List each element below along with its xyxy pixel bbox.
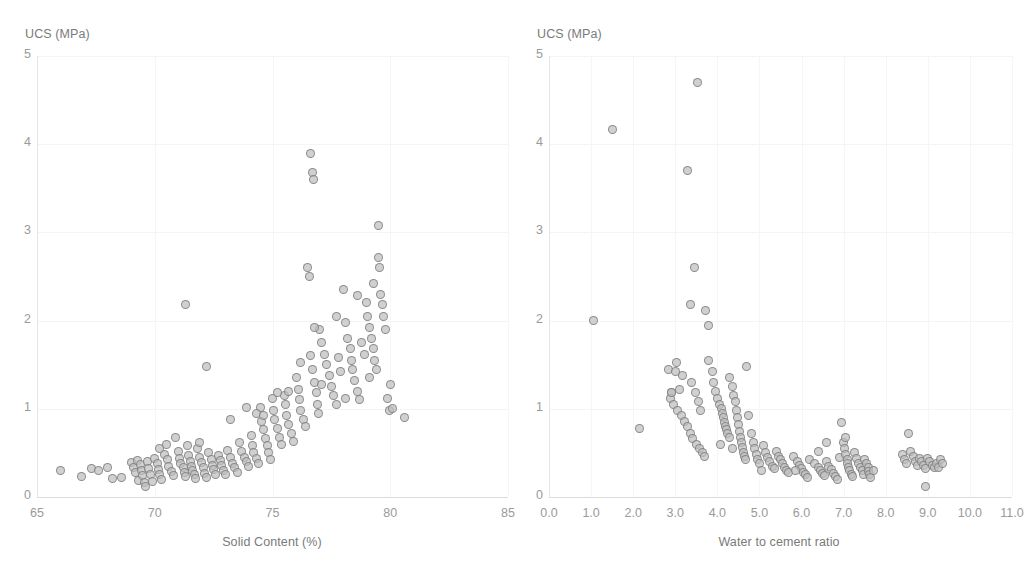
data-point	[281, 400, 290, 409]
data-point	[362, 298, 371, 307]
data-point	[313, 400, 322, 409]
data-point	[347, 356, 356, 365]
data-point	[327, 382, 336, 391]
gridline-vertical	[633, 56, 634, 497]
data-point	[728, 444, 737, 453]
scatter-plot-figure: UCS (MPa) 0123456570758085 Solid Content…	[0, 0, 1029, 588]
data-point	[635, 424, 644, 433]
data-point	[355, 395, 364, 404]
data-point	[296, 406, 305, 415]
x-axis-line	[37, 497, 508, 498]
data-point	[309, 175, 318, 184]
data-point	[259, 411, 268, 420]
data-point	[770, 464, 779, 473]
data-point	[346, 344, 355, 353]
data-point	[374, 253, 383, 262]
data-point	[700, 452, 709, 461]
data-point	[367, 334, 376, 343]
data-point	[589, 316, 598, 325]
data-point	[341, 318, 350, 327]
gridline-vertical	[844, 56, 845, 497]
data-point	[191, 474, 200, 483]
data-point	[731, 397, 740, 406]
data-point	[378, 300, 387, 309]
data-point	[747, 429, 756, 438]
data-point	[902, 459, 911, 468]
data-point	[348, 365, 357, 374]
data-point	[108, 474, 117, 483]
data-point	[704, 321, 713, 330]
data-point	[833, 475, 842, 484]
data-point	[233, 468, 242, 477]
data-point	[308, 365, 317, 374]
data-point	[671, 367, 680, 376]
y-axis-line	[549, 56, 550, 497]
y-axis-tick-label: 1	[7, 400, 31, 414]
data-point	[357, 338, 366, 347]
data-point	[353, 387, 362, 396]
y-axis-tick-label: 2	[519, 312, 543, 326]
data-point	[379, 312, 388, 321]
data-point	[306, 351, 315, 360]
y-axis-tick-label: 2	[7, 312, 31, 326]
data-point	[388, 404, 397, 413]
data-point	[148, 477, 157, 486]
data-point	[305, 272, 314, 281]
data-point	[195, 438, 204, 447]
data-point	[334, 353, 343, 362]
y-axis-label-right: UCS (MPa)	[537, 27, 602, 41]
x-axis-tick-label: 7.0	[824, 506, 864, 520]
gridline-horizontal	[549, 144, 1012, 145]
data-point	[608, 125, 617, 134]
plot-area-left: 0123456570758085	[37, 56, 508, 497]
chart-panel-water-cement: UCS (MPa) 0123450.01.02.03.04.05.06.07.0…	[519, 0, 1029, 588]
data-point	[869, 466, 878, 475]
data-point	[683, 166, 692, 175]
data-point	[728, 382, 737, 391]
gridline-vertical	[508, 56, 509, 497]
x-axis-tick-label: 9.0	[908, 506, 948, 520]
data-point	[183, 441, 192, 450]
data-point	[708, 367, 717, 376]
x-axis-tick-label: 70	[135, 506, 175, 520]
data-point	[254, 459, 263, 468]
y-axis-tick-label: 3	[7, 223, 31, 237]
y-axis-tick-label: 0	[519, 488, 543, 502]
data-point	[56, 466, 65, 475]
data-point	[336, 367, 345, 376]
data-point	[350, 376, 359, 385]
gridline-vertical	[928, 56, 929, 497]
data-point	[667, 388, 676, 397]
data-point	[686, 300, 695, 309]
data-point	[822, 438, 831, 447]
gridline-vertical	[675, 56, 676, 497]
data-point	[365, 373, 374, 382]
x-axis-line	[549, 497, 1012, 498]
gridline-vertical	[886, 56, 887, 497]
gridline-horizontal	[549, 321, 1012, 322]
data-point	[242, 403, 251, 412]
data-point	[270, 415, 279, 424]
data-point	[317, 380, 326, 389]
x-axis-tick-label: 3.0	[655, 506, 695, 520]
data-point	[400, 413, 409, 422]
gridline-vertical	[1012, 56, 1013, 497]
data-point	[757, 466, 766, 475]
data-point	[202, 362, 211, 371]
data-point	[814, 447, 823, 456]
data-point	[317, 338, 326, 347]
data-point	[202, 473, 211, 482]
data-point	[841, 433, 850, 442]
x-axis-tick-label: 1.0	[571, 506, 611, 520]
data-point	[803, 473, 812, 482]
data-point	[343, 334, 352, 343]
data-point	[369, 344, 378, 353]
data-point	[269, 406, 278, 415]
y-axis-tick-label: 4	[519, 135, 543, 149]
data-point	[273, 424, 282, 433]
x-axis-tick-label: 8.0	[866, 506, 906, 520]
data-point	[103, 463, 112, 472]
data-point	[339, 285, 348, 294]
data-point	[282, 411, 291, 420]
data-point	[791, 466, 800, 475]
